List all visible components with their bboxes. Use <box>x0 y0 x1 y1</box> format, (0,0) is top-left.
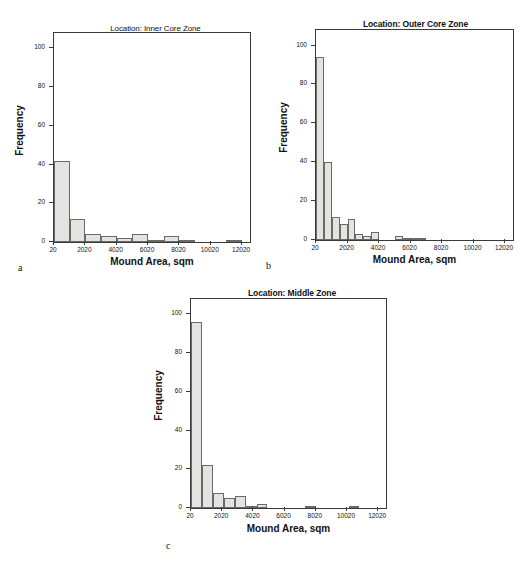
x-tick-mark <box>252 507 253 511</box>
histogram-bar <box>235 496 246 508</box>
y-tick-mark <box>49 202 53 203</box>
x-tick-label: 2020 <box>204 512 238 519</box>
y-tick-mark <box>186 391 190 392</box>
histogram-bar <box>213 493 224 508</box>
x-tick-mark <box>377 507 378 511</box>
x-tick-label: 6020 <box>393 244 427 251</box>
histogram-bar <box>101 236 117 242</box>
x-tick-mark <box>504 239 505 243</box>
y-tick-label: 60 <box>23 121 45 128</box>
panel-c-plot-area <box>190 298 387 509</box>
y-tick-label: 60 <box>160 387 182 394</box>
y-tick-mark <box>311 200 315 201</box>
x-tick-label: 4020 <box>361 244 395 251</box>
histogram-bar <box>411 238 419 240</box>
y-tick-label: 0 <box>23 237 45 244</box>
panel-c-letter: c <box>166 540 170 551</box>
panel-a-plot-area <box>53 32 251 243</box>
x-tick-label: 10020 <box>329 512 363 519</box>
histogram-bar <box>148 240 164 242</box>
y-tick-label: 40 <box>160 426 182 433</box>
panel-a-letter: a <box>18 262 22 273</box>
x-tick-mark <box>178 241 179 245</box>
panel-a-bars <box>54 33 250 242</box>
histogram-bar <box>202 465 213 508</box>
histogram-bar <box>117 238 133 242</box>
panel-c-y-axis-label: Frequency <box>153 361 164 431</box>
y-tick-mark <box>186 313 190 314</box>
histogram-bar <box>363 236 371 240</box>
y-tick-label: 100 <box>160 309 182 316</box>
y-tick-label: 0 <box>285 235 307 242</box>
histogram-bar <box>179 240 195 242</box>
panel-a: Location: Inner Core Zone Frequency Moun… <box>0 0 258 285</box>
x-tick-label: 12020 <box>487 244 519 251</box>
x-tick-mark <box>346 507 347 511</box>
x-tick-mark <box>84 241 85 245</box>
y-tick-label: 40 <box>23 160 45 167</box>
y-tick-mark <box>311 45 315 46</box>
y-tick-mark <box>49 47 53 48</box>
panel-b-y-axis-label: Frequency <box>278 93 289 163</box>
panel-b-title: Location: Outer Core Zone <box>318 19 513 29</box>
histogram-bar <box>257 504 268 508</box>
x-tick-label: 12020 <box>360 512 394 519</box>
histogram-bar <box>348 219 356 240</box>
histogram-bar <box>132 234 148 242</box>
y-tick-mark <box>186 430 190 431</box>
x-tick-mark <box>441 239 442 243</box>
panel-a-y-axis-label: Frequency <box>14 96 25 166</box>
panel-b-plot-area <box>315 29 514 241</box>
histogram-bar <box>418 238 426 240</box>
y-tick-label: 0 <box>160 503 182 510</box>
x-tick-label: 20 <box>298 244 332 251</box>
x-tick-mark <box>284 507 285 511</box>
x-tick-label: 6020 <box>267 512 301 519</box>
y-tick-mark <box>186 352 190 353</box>
panel-b-letter: b <box>266 260 271 271</box>
y-tick-label: 20 <box>285 196 307 203</box>
panel-c-x-axis-label: Mound Area, sqm <box>190 523 387 534</box>
y-tick-label: 100 <box>285 41 307 48</box>
y-tick-mark <box>186 468 190 469</box>
x-tick-label: 4020 <box>99 246 133 253</box>
x-tick-mark <box>116 241 117 245</box>
x-tick-label: 8020 <box>424 244 458 251</box>
histogram-bar <box>332 217 340 240</box>
panel-c: Location: Middle Zone Frequency Mound Ar… <box>130 285 410 563</box>
x-tick-label: 12020 <box>224 246 258 253</box>
y-tick-mark <box>311 122 315 123</box>
y-tick-mark <box>311 161 315 162</box>
panel-b-bars <box>316 30 513 240</box>
histogram-bar <box>316 57 324 240</box>
x-tick-mark <box>378 239 379 243</box>
histogram-bar <box>395 236 403 240</box>
panel-b: Location: Outer Core Zone Frequency Moun… <box>258 0 519 285</box>
x-tick-mark <box>241 241 242 245</box>
histogram-bar <box>324 162 332 240</box>
y-tick-label: 80 <box>285 79 307 86</box>
y-tick-mark <box>49 86 53 87</box>
y-tick-label: 20 <box>23 198 45 205</box>
x-tick-label: 6020 <box>130 246 164 253</box>
histogram-bar <box>164 236 180 242</box>
x-tick-label: 4020 <box>235 512 269 519</box>
x-tick-mark <box>190 507 191 511</box>
y-tick-label: 100 <box>23 43 45 50</box>
histogram-bar <box>355 234 363 240</box>
x-tick-label: 2020 <box>67 246 101 253</box>
y-tick-label: 40 <box>285 157 307 164</box>
y-tick-mark <box>49 125 53 126</box>
x-tick-label: 2020 <box>330 244 364 251</box>
histogram-bar <box>246 506 257 508</box>
panel-c-title: Location: Middle Zone <box>192 288 392 298</box>
x-tick-mark <box>315 507 316 511</box>
x-tick-mark <box>347 239 348 243</box>
histogram-bar <box>224 498 235 508</box>
panel-c-bars <box>191 299 386 508</box>
y-tick-label: 80 <box>23 82 45 89</box>
x-tick-label: 8020 <box>161 246 195 253</box>
x-tick-mark <box>147 241 148 245</box>
x-tick-label: 20 <box>173 512 207 519</box>
x-tick-mark <box>473 239 474 243</box>
